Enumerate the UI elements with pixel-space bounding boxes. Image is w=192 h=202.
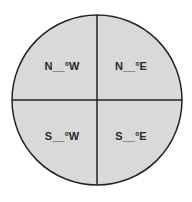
quadrant-label-nw: N__°W <box>45 60 81 72</box>
quadrant-label-sw: S__°W <box>45 130 80 142</box>
quadrant-label-se: S__°E <box>115 130 146 142</box>
quadrant-label-ne: N__°E <box>115 60 147 72</box>
compass-quadrant-diagram: N__°W N__°E S__°W S__°E <box>0 0 192 202</box>
